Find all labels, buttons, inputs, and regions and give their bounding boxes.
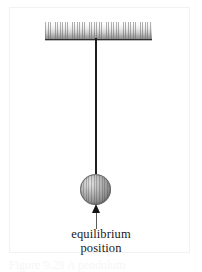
pendulum-string [95, 38, 97, 180]
equilibrium-position-label: equilibrium position [0, 228, 202, 255]
ceiling-support-bar [45, 22, 152, 40]
equilibrium-arrow-head-icon [92, 204, 100, 213]
figure-frame [9, 7, 190, 253]
figure-caption: Figure 9.29 A pendulum [9, 259, 190, 272]
ceiling-support-underline [45, 40, 152, 41]
equilibrium-label-line-1: equilibrium [0, 228, 202, 242]
pendulum-bob-outline [80, 174, 111, 205]
pendulum-figure: equilibrium position Figure 9.29 A pendu… [0, 0, 202, 272]
equilibrium-label-line-2: position [0, 242, 202, 256]
